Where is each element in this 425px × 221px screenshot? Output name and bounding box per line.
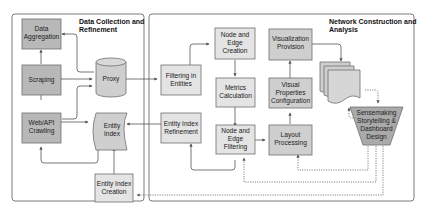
- panel-title-left-line2: Refinement: [79, 26, 118, 33]
- svg-text:Aggregation: Aggregation: [24, 33, 60, 41]
- svg-text:Provision: Provision: [277, 43, 304, 50]
- node-web-api-crawling: Web/API Crawling: [22, 113, 61, 143]
- visualization-documents-icon: [320, 62, 360, 103]
- node-node-edge-filtering: Node and Edge Filtering: [216, 125, 255, 154]
- svg-text:Web/API: Web/API: [29, 119, 55, 126]
- svg-text:Design: Design: [366, 133, 387, 141]
- svg-text:Configuration: Configuration: [271, 97, 311, 105]
- svg-text:Node and: Node and: [221, 127, 250, 134]
- svg-text:Metrics: Metrics: [225, 84, 247, 91]
- node-filtering-in-entities: Filtering in Entities: [161, 65, 201, 95]
- svg-text:Creation: Creation: [102, 188, 127, 195]
- node-entity-index-creation: Entity Index Creation: [95, 174, 133, 202]
- svg-text:Refinement: Refinement: [164, 128, 198, 135]
- svg-text:Filtering: Filtering: [224, 143, 248, 151]
- node-scraping: Scraping: [22, 65, 61, 95]
- svg-text:Calculation: Calculation: [219, 92, 252, 99]
- node-metrics-calculation: Metrics Calculation: [216, 78, 255, 107]
- svg-text:Data: Data: [35, 25, 49, 32]
- node-entity-index-refinement: Entity Index Refinement: [161, 113, 201, 143]
- node-node-edge-creation: Node and Edge Creation: [215, 28, 255, 59]
- svg-text:Visual: Visual: [282, 81, 300, 88]
- svg-text:Index: Index: [104, 130, 121, 137]
- svg-text:Creation: Creation: [223, 47, 248, 54]
- svg-text:Sensemaking: Sensemaking: [357, 109, 397, 117]
- svg-text:Processing: Processing: [274, 139, 307, 147]
- svg-text:Entity Index: Entity Index: [164, 120, 199, 128]
- node-layout-processing: Layout Processing: [269, 125, 312, 155]
- node-entity-index: Entity Index: [93, 113, 127, 150]
- svg-text:Storytelling &: Storytelling &: [357, 117, 396, 125]
- panel-title-right-line1: Network Construction and: [329, 18, 417, 25]
- svg-text:Node and: Node and: [221, 31, 250, 38]
- svg-text:Filtering in: Filtering in: [166, 72, 197, 80]
- svg-text:Edge: Edge: [227, 39, 243, 47]
- svg-text:Dashboard: Dashboard: [360, 125, 393, 132]
- panel-title-left-line1: Data Collection and: [79, 18, 144, 25]
- node-data-aggregation: Data Aggregation: [22, 19, 61, 49]
- svg-text:Scraping: Scraping: [28, 76, 54, 84]
- svg-text:Visualization: Visualization: [272, 35, 309, 42]
- svg-text:Edge: Edge: [228, 135, 244, 143]
- svg-text:Entity Index: Entity Index: [97, 180, 132, 188]
- node-proxy-database: Proxy: [96, 58, 126, 97]
- svg-text:Proxy: Proxy: [103, 75, 121, 83]
- svg-text:Crawling: Crawling: [29, 127, 55, 135]
- node-visual-properties-configuration: Visual Properties Configuration: [269, 78, 312, 108]
- panel-title-right-line2: Analysis: [329, 26, 358, 34]
- node-visualization-provision: Visualization Provision: [269, 29, 312, 60]
- svg-text:Entities: Entities: [170, 80, 192, 87]
- node-sensemaking: Sensemaking Storytelling & Dashboard Des…: [350, 107, 403, 145]
- svg-text:Layout: Layout: [281, 131, 301, 139]
- workflow-diagram: Data Collection and Refinement Network C…: [0, 0, 425, 221]
- svg-text:Properties: Properties: [275, 89, 306, 97]
- svg-text:Entity: Entity: [104, 122, 121, 130]
